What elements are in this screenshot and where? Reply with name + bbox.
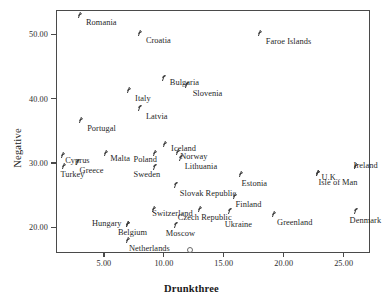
outlier-point-marker (187, 247, 193, 253)
y-axis-tick-label: 40.00 (18, 94, 48, 103)
x-axis-tick (103, 253, 104, 257)
data-point-label: Romania (86, 18, 117, 27)
data-point-label: Portugal (87, 124, 116, 133)
data-point-label: Sweden (133, 170, 160, 179)
y-axis-tick (51, 98, 56, 99)
x-axis-tick-label: 10.00 (154, 259, 173, 268)
y-axis-tick (51, 162, 56, 163)
data-point-label: Ukraine (225, 220, 252, 229)
data-point-label: Bulgaria (170, 78, 199, 87)
x-axis-tick (283, 253, 284, 257)
data-point-label: Norway (180, 152, 207, 161)
x-axis-tick-label: 25.00 (334, 259, 353, 268)
data-point-label: Poland (133, 155, 157, 164)
data-point-label: Slovenia (193, 89, 223, 98)
data-point-label: Greenland (277, 218, 312, 227)
x-axis-tick-label: 5.00 (97, 259, 112, 268)
data-point-label: Cyprus (65, 156, 90, 165)
data-point-label: Italy (135, 94, 151, 103)
data-point-label: Lithuania (185, 162, 218, 171)
data-point-label: Netherlands (129, 244, 170, 253)
data-point-label: Latvia (146, 112, 168, 121)
data-point-label: Ireland (354, 161, 378, 170)
x-axis-tick (223, 253, 224, 257)
x-axis-tick (163, 253, 164, 257)
data-point-label: Turkey (60, 170, 84, 179)
data-point-label: Denmark (350, 216, 382, 225)
y-axis-tick (51, 227, 56, 228)
data-point-label: Finland (236, 200, 262, 209)
y-axis-tick (51, 34, 56, 35)
data-point-label: Estonia (242, 179, 267, 188)
y-axis-tick-label: 50.00 (18, 30, 48, 39)
data-point-label: Czech Republic (178, 213, 232, 222)
data-point-label: Belgium (118, 228, 147, 237)
data-point-label: Hungary (92, 219, 122, 228)
y-axis-tick-label: 20.00 (18, 223, 48, 232)
x-axis-label: Drunkthree (0, 283, 383, 294)
x-axis-tick-label: 15.00 (214, 259, 233, 268)
data-point-label: Malta (110, 154, 130, 163)
y-axis-tick-label: 30.00 (18, 159, 48, 168)
data-point-label: Moscow (166, 229, 195, 238)
data-point-label: Isle of Man (318, 178, 357, 187)
data-point-label: Croatia (146, 36, 171, 45)
data-point-label: Faroe Islands (266, 37, 312, 46)
x-axis-tick-label: 20.00 (274, 259, 293, 268)
scatter-plot-figure: Negative 5.0010.0015.0020.0025.0020.0030… (0, 0, 383, 295)
x-axis-tick (343, 253, 344, 257)
data-point-label: Slovak Republic (180, 189, 236, 198)
